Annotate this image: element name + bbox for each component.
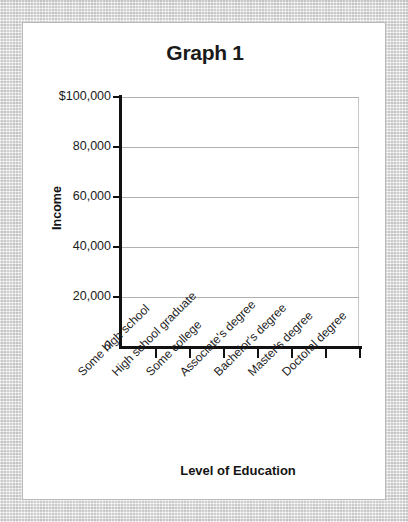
y-axis-spine bbox=[119, 95, 122, 349]
y-axis-tick bbox=[113, 196, 121, 198]
x-axis-title: Level of Education bbox=[93, 463, 383, 478]
gridline-80000 bbox=[121, 147, 359, 148]
figure-card: Graph 1 $100,000 80,000 60,000 40,000 20… bbox=[22, 22, 386, 500]
x-axis-tick bbox=[359, 349, 361, 358]
y-axis-tick-label: 80,000 bbox=[45, 139, 111, 153]
x-axis-tick bbox=[325, 349, 327, 358]
y-axis-title: Income bbox=[50, 168, 64, 248]
y-axis-tick-label: $100,000 bbox=[45, 89, 111, 103]
y-axis-tick bbox=[113, 246, 121, 248]
y-axis-tick bbox=[113, 146, 121, 148]
gridline-20000 bbox=[121, 297, 359, 298]
gridline-60000 bbox=[121, 197, 359, 198]
y-axis-tick bbox=[113, 96, 121, 98]
y-axis-tick-label: 20,000 bbox=[45, 289, 111, 303]
y-axis-tick-labels: $100,000 80,000 60,000 40,000 20,000 0 bbox=[37, 23, 111, 501]
gridline-40000 bbox=[121, 247, 359, 248]
y-axis-tick bbox=[113, 296, 121, 298]
gridline-100000 bbox=[121, 97, 359, 98]
chart-screenshot: { "figure": { "title": "Graph 1", "x_axi… bbox=[0, 0, 408, 522]
